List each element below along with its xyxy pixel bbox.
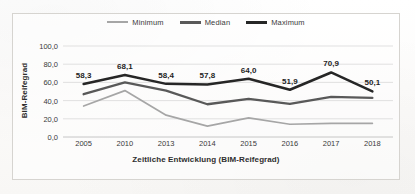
y-axis-tick-label: 20,0	[43, 114, 58, 123]
x-axis-tick-label: 2014	[199, 139, 216, 148]
y-axis-title: BIM-Reifegrad	[18, 43, 32, 138]
x-axis-tick-label: 2015	[240, 139, 257, 148]
x-axis-tick-label: 2005	[75, 139, 92, 148]
legend-swatch-icon	[180, 21, 201, 24]
x-axis-tick-label: 2016	[282, 139, 299, 148]
x-axis-tick-label: 2018	[364, 139, 381, 148]
legend-swatch-icon	[246, 21, 267, 24]
series-line-minimum	[84, 91, 373, 126]
y-axis-tick-label: 40,0	[43, 96, 58, 105]
legend-label: Maximum	[271, 18, 305, 27]
y-axis-tick-label: 80,0	[43, 60, 58, 69]
legend-item-median[interactable]: Median	[180, 18, 231, 27]
plot-area	[63, 46, 393, 137]
legend-item-maximum[interactable]: Maximum	[246, 18, 305, 27]
x-axis-tick-labels: 20052010201320142015201620172018	[63, 139, 393, 153]
y-axis-title-label: BIM-Reifegrad	[21, 63, 30, 119]
x-axis-tick-label: 2017	[323, 139, 340, 148]
y-axis-tick-label: 0,0	[48, 133, 58, 142]
chart-container: MinimumMedianMaximum BIM-Reifegrad 0,020…	[0, 0, 415, 194]
legend-label: Median	[205, 18, 231, 27]
x-axis-title: Zeitliche Entwicklung (BIM-Reifegrad)	[12, 155, 400, 164]
chart-legend: MinimumMedianMaximum	[12, 13, 400, 31]
y-axis-tick-label: 100,0	[39, 42, 58, 51]
x-axis-tick-label: 2013	[158, 139, 175, 148]
y-axis-tick-label: 60,0	[43, 78, 58, 87]
y-axis-tick-labels: 0,020,040,060,080,0100,0	[32, 40, 60, 142]
x-axis-tick-label: 2010	[117, 139, 134, 148]
series-canvas	[63, 46, 393, 137]
legend-label: Minimum	[132, 18, 163, 27]
legend-item-minimum[interactable]: Minimum	[107, 18, 163, 27]
legend-swatch-icon	[107, 21, 128, 23]
